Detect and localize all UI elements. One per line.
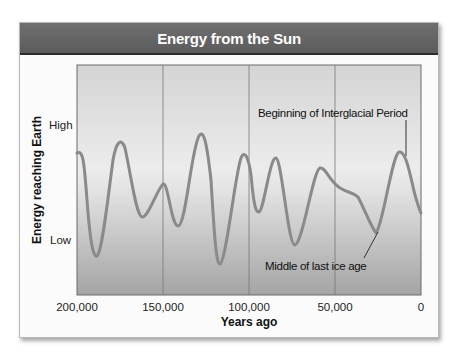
y-tick-high: High — [49, 119, 73, 131]
chart-svg: Beginning of Interglacial Period Middle … — [0, 0, 458, 359]
annotation-interglacial: Beginning of Interglacial Period — [258, 107, 408, 119]
annotation-ice-age: Middle of last ice age — [265, 260, 366, 272]
x-tick-150000: 150,000 — [142, 301, 184, 313]
x-axis-title: Years ago — [221, 315, 278, 329]
x-tick-50000: 50,000 — [317, 301, 352, 313]
x-tick-0: 0 — [418, 301, 424, 313]
x-tick-100000: 100,000 — [228, 301, 270, 313]
y-tick-low: Low — [50, 234, 72, 246]
y-axis-title: Energy reaching Earth — [30, 116, 44, 244]
x-tick-200000: 200,000 — [56, 301, 98, 313]
